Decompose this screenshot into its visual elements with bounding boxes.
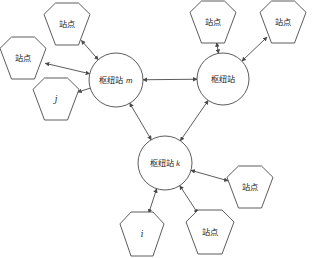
node-label: 站点 (205, 17, 221, 27)
hub-node[interactable]: 枢纽站 (197, 53, 249, 105)
edge (180, 100, 208, 140)
hub-node[interactable]: 枢纽站k (138, 136, 192, 190)
station-node[interactable]: 站点 (0, 37, 46, 79)
node-label: 站点 (275, 17, 291, 27)
station-node[interactable]: 站点 (190, 1, 236, 43)
node-label: 站点 (202, 227, 218, 237)
node-label: 站点 (59, 19, 75, 29)
edge (217, 43, 219, 54)
edge (78, 88, 91, 92)
node-label: 站点 (242, 182, 258, 192)
edge (191, 170, 228, 180)
edge (180, 186, 198, 214)
station-node[interactable]: 站点 (260, 1, 306, 43)
edge (45, 63, 89, 74)
station-node[interactable]: 站点 (227, 166, 273, 208)
node-label: 枢纽站k (150, 158, 182, 168)
edge (81, 40, 98, 59)
station-node[interactable]: i (120, 212, 164, 256)
node-label-subscript: k (176, 159, 181, 168)
station-node[interactable]: 站点 (186, 210, 234, 254)
node-label: i (141, 229, 144, 239)
network-diagram: 枢纽站m枢纽站枢纽站k站点站点j站点站点站点i站点 (0, 0, 313, 258)
edge (149, 189, 157, 213)
node-label: 枢纽站m (99, 75, 133, 85)
node-label: 站点 (15, 53, 31, 63)
edge (130, 103, 152, 140)
edge (242, 37, 267, 61)
diagram-canvas: 枢纽站m枢纽站枢纽站k站点站点j站点站点站点i站点 (0, 0, 313, 258)
station-node[interactable]: 站点 (44, 3, 90, 45)
node-label-subscript: m (126, 76, 133, 85)
edge (143, 79, 197, 80)
node-label: 枢纽站 (211, 74, 235, 84)
station-node[interactable]: j (33, 78, 79, 120)
hub-node[interactable]: 枢纽站m (89, 53, 143, 107)
nodes-layer: 枢纽站m枢纽站枢纽站k站点站点j站点站点站点i站点 (0, 1, 306, 256)
